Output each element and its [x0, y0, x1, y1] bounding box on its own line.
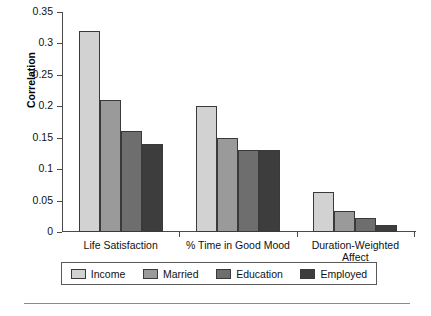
bar: [376, 225, 397, 232]
bar: [217, 138, 238, 232]
y-tick-label: 0.25: [33, 68, 53, 80]
y-tick-label: 0.1: [38, 162, 53, 174]
legend-swatch-icon: [71, 269, 86, 279]
bar-chart-figure: Correlation 00.050.10.150.20.250.30.35 L…: [0, 0, 431, 316]
y-axis-title: Correlation: [25, 35, 37, 125]
legend-item-education: Education: [216, 268, 283, 280]
bar: [196, 106, 217, 232]
legend-item-employed: Employed: [300, 268, 367, 280]
legend-swatch-icon: [300, 269, 315, 279]
bar: [313, 192, 334, 232]
legend-swatch-icon: [143, 269, 158, 279]
y-tick-mark: [57, 232, 62, 233]
x-tick-mark: [414, 232, 415, 237]
bar: [79, 31, 100, 232]
y-tick-label: 0.15: [33, 131, 53, 143]
bar: [121, 131, 142, 232]
bar: [238, 150, 259, 232]
y-tick-label: 0.05: [33, 194, 53, 206]
legend-label: Income: [91, 268, 125, 280]
category-label: % Time in Good Mood: [179, 239, 296, 251]
legend-swatch-icon: [216, 269, 231, 279]
legend-item-married: Married: [143, 268, 199, 280]
chart-legend: IncomeMarriedEducationEmployed: [61, 262, 377, 285]
y-tick-label: 0: [47, 225, 53, 237]
category-label: Life Satisfaction: [62, 239, 179, 251]
bar: [142, 144, 163, 232]
x-tick-mark: [179, 232, 180, 237]
y-tick-label: 0.2: [38, 99, 53, 111]
category-label: Duration-Weighted Affect: [297, 239, 414, 263]
legend-label: Married: [163, 268, 199, 280]
legend-label: Education: [236, 268, 283, 280]
legend-item-income: Income: [71, 268, 125, 280]
footer-divider: [24, 303, 410, 304]
y-tick-label: 0.3: [38, 36, 53, 48]
bar: [259, 150, 280, 232]
y-tick-label: 0.35: [33, 5, 53, 17]
bar: [355, 218, 376, 232]
bar: [100, 100, 121, 232]
x-tick-mark: [297, 232, 298, 237]
legend-label: Employed: [320, 268, 367, 280]
bar: [334, 211, 355, 232]
bars-layer: [62, 12, 414, 232]
